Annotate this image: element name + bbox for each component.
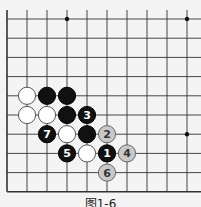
black-stone: 5 xyxy=(58,145,75,162)
move-number: 4 xyxy=(123,147,131,160)
move-number: 7 xyxy=(43,128,51,141)
white-stone xyxy=(18,106,35,123)
move-number: 1 xyxy=(103,147,111,160)
black-stone: 1 xyxy=(98,145,115,162)
go-board: 3725146 xyxy=(0,0,201,207)
figure-caption: 图1-6 xyxy=(0,197,201,207)
move-number: 2 xyxy=(103,128,111,141)
black-stone: 3 xyxy=(78,106,95,123)
black-stone: 7 xyxy=(38,126,55,143)
move-number: 6 xyxy=(103,167,111,180)
white-stone: 2 xyxy=(98,126,115,143)
move-number: 3 xyxy=(83,109,91,122)
star-point-icon xyxy=(185,132,189,136)
black-stone xyxy=(58,106,75,123)
star-point-icon xyxy=(185,17,189,21)
black-stone xyxy=(38,87,55,104)
white-stone xyxy=(78,145,95,162)
star-point-icon xyxy=(65,17,69,21)
black-stone xyxy=(78,126,95,143)
move-number: 5 xyxy=(63,147,71,160)
black-stone xyxy=(58,87,75,104)
white-stone xyxy=(38,106,55,123)
white-stone xyxy=(58,126,75,143)
white-stone xyxy=(18,87,35,104)
white-stone: 4 xyxy=(118,145,135,162)
white-stone: 6 xyxy=(98,164,115,181)
